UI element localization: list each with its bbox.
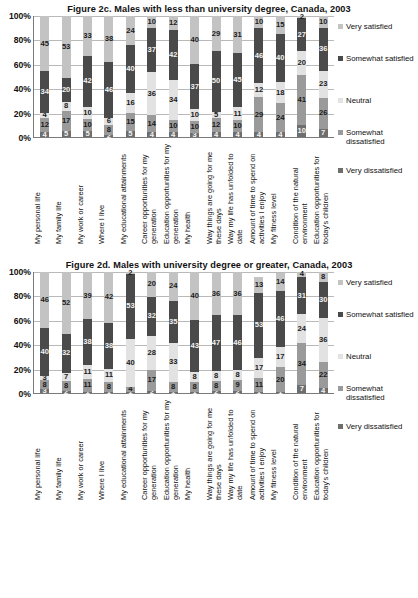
bar-column[interactable]: 429124610 (248, 16, 269, 137)
bar-segment: 40 (190, 16, 199, 64)
bar-column[interactable]: 18113842 (98, 272, 119, 393)
bar-column[interactable]: 1884340 (184, 272, 205, 393)
legend-item[interactable]: Somewhat satisfied (338, 54, 418, 63)
bar-column[interactable]: 410344212 (163, 16, 184, 137)
segment-value-label: 38 (105, 342, 113, 350)
legend-item[interactable]: Very dissatisfied (338, 166, 418, 175)
y-tick-label: 80% (14, 291, 31, 301)
stacked-bar: 120174614 (276, 272, 285, 393)
bar-column[interactable]: 18333524 (163, 272, 184, 393)
bar-column[interactable]: 1440532 (120, 272, 141, 393)
y-tick-label: 100% (9, 267, 31, 277)
bar-segment: 1 (104, 392, 113, 393)
bar-column[interactable]: 310103740 (184, 16, 205, 137)
bar-column[interactable]: 2884736 (205, 272, 226, 393)
bar-column[interactable]: 3834046 (34, 272, 55, 393)
bar-column[interactable]: 111113839 (77, 272, 98, 393)
bar-column[interactable]: 414363710 (141, 16, 162, 137)
segment-value-label: 35 (169, 318, 177, 326)
stacked-bar: 726233610 (319, 16, 328, 137)
bar-column[interactable]: 515164024 (120, 16, 141, 137)
stacked-bar: 2864638 (104, 16, 113, 137)
bar-segment: 29 (212, 16, 221, 51)
bar-column[interactable]: 726233610 (312, 16, 333, 137)
bar-column[interactable]: 510104233 (77, 16, 98, 137)
segment-value-label: 12 (169, 19, 177, 27)
bar-segment: 31 (297, 277, 306, 315)
legend-label: Very dissatisfied (346, 422, 402, 431)
segment-value-label: 5 (214, 111, 218, 119)
bar-segment: 1 (169, 392, 178, 393)
segment-value-label: 18 (276, 89, 284, 97)
bar-segment: 34 (169, 80, 178, 120)
bar-segment: 20 (297, 51, 306, 75)
x-tick: Education opportunities for today's chil… (313, 394, 335, 502)
bar-segment: 32 (62, 334, 71, 372)
legend-item[interactable]: Very satisfied (338, 22, 418, 31)
segment-value-label: 16 (126, 99, 134, 107)
segment-value-label: 17 (255, 364, 263, 372)
stacked-bar: 2873252 (62, 272, 71, 393)
segment-value-label: 26 (319, 109, 327, 117)
legend-item[interactable]: Very dissatisfied (338, 422, 418, 431)
bar-column[interactable]: 424184015 (270, 16, 291, 137)
segment-value-label: 39 (83, 292, 91, 300)
segment-value-label: 30 (319, 296, 327, 304)
figure-figure-2d: Figure 2d. Males with university degree … (0, 256, 418, 502)
x-tick-label: Education opportunities for my generatio… (163, 396, 183, 500)
legend-item[interactable]: Very satisfied (338, 278, 418, 287)
stacked-bar: 18333524 (169, 272, 178, 393)
bar-segment: 8 (169, 382, 178, 392)
stacked-bar: 18113842 (104, 272, 113, 393)
bar-column[interactable]: 111175313 (248, 272, 269, 393)
bar-column[interactable]: 41243445 (34, 16, 55, 137)
legend-item[interactable]: Somewhat dissatisfied (338, 128, 418, 146)
bar-segment: 9 (233, 380, 242, 391)
legend-swatch-icon (338, 130, 343, 135)
bar-column[interactable]: 2984636 (227, 272, 248, 393)
legend: Very satisfiedSomewhat satisfiedNeutralS… (334, 272, 418, 394)
bar-segment: 32 (147, 297, 156, 336)
bar-segment: 31 (233, 16, 242, 53)
bar-segment: 5 (62, 131, 71, 137)
bar-column[interactable]: 410114531 (227, 16, 248, 137)
bar-column[interactable]: 217283220 (141, 272, 162, 393)
legend-item[interactable]: Neutral (338, 352, 418, 361)
bar-column[interactable]: 42236308 (312, 272, 333, 393)
segment-value-label: 42 (105, 294, 113, 302)
legend-item[interactable]: Neutral (338, 96, 418, 105)
bar-segment: 12 (169, 16, 178, 30)
segment-value-label: 46 (105, 86, 113, 94)
legend-item[interactable]: Somewhat satisfied (338, 310, 418, 319)
bar-segment: 53 (126, 274, 135, 338)
segment-value-label: 10 (255, 18, 263, 26)
bar-segment: 17 (147, 370, 156, 391)
bar-segment: 8 (212, 371, 221, 381)
bar-segment: 40 (190, 272, 199, 320)
bar-column[interactable]: 73424314 (291, 272, 312, 393)
legend-item[interactable]: Somewhat dissatisfied (338, 384, 418, 402)
legend-label: Somewhat dissatisfied (346, 128, 418, 146)
bar-column[interactable]: 104120272 (291, 16, 312, 137)
bar-segment: 37 (190, 64, 199, 109)
segment-value-label: 23 (319, 80, 327, 88)
x-tick-label: Amount of time to spend on activities I … (249, 396, 269, 500)
segment-value-label: 40 (276, 54, 284, 62)
x-tick: Career opportunities for my generation (141, 394, 163, 502)
segment-value-label: 42 (169, 51, 177, 59)
x-tick-label: My health (184, 396, 204, 500)
bar-segment: 18 (276, 82, 285, 104)
bar-column[interactable]: 41255029 (205, 16, 226, 137)
bar-segment: 1 (83, 392, 92, 393)
stacked-bar: 111175313 (254, 272, 263, 393)
y-tick-label: 80% (14, 35, 31, 45)
bar-column[interactable]: 51782053 (55, 16, 76, 137)
bar-column[interactable]: 120174614 (270, 272, 291, 393)
bar-segment: 29 (254, 97, 263, 132)
bar-column[interactable]: 2864638 (98, 16, 119, 137)
bar-column[interactable]: 2873252 (55, 272, 76, 393)
stacked-bar: 217283220 (147, 272, 156, 393)
bar-segment: 4 (40, 113, 49, 118)
segment-value-label: 8 (193, 383, 197, 391)
stacked-bar: 510104233 (83, 16, 92, 137)
